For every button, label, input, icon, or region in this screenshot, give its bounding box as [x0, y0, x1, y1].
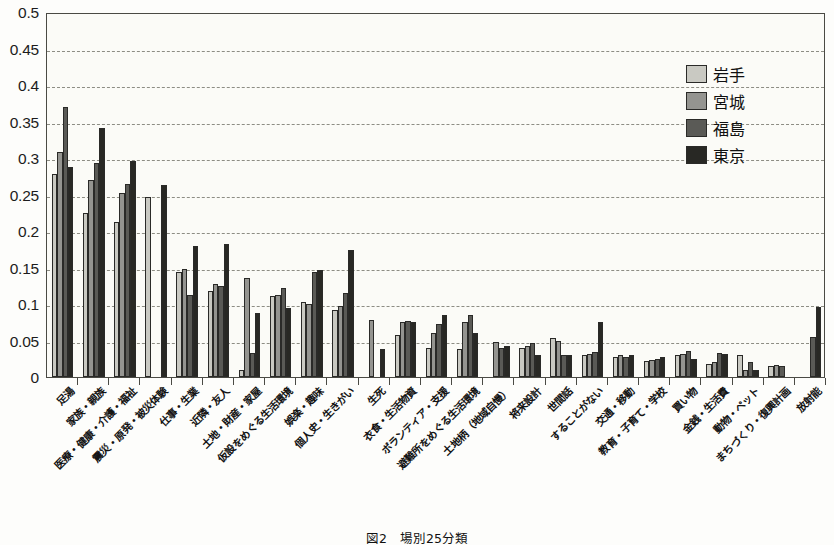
bar: [660, 357, 665, 377]
bar-group: [83, 14, 105, 377]
x-axis-ticks: [46, 378, 825, 385]
x-axis-tick: [513, 378, 514, 385]
figure-caption: 図2 場別25分類: [0, 528, 834, 545]
y-axis-tick-label: 0.5: [18, 4, 39, 22]
bar-group: [239, 14, 261, 377]
bar-group: [519, 14, 541, 377]
bar-group: [176, 14, 198, 377]
y-axis-tick-label: 0.35: [10, 114, 39, 132]
x-axis-tick: [358, 378, 359, 385]
legend-label: 東京: [713, 143, 745, 167]
bar-group: [457, 14, 479, 377]
x-axis-tick: [295, 378, 296, 385]
x-axis-category-label: 足湯: [53, 385, 76, 408]
bar: [816, 307, 821, 377]
legend-swatch-icon: [686, 119, 707, 137]
bar-group: [145, 14, 167, 377]
bar-group: [301, 14, 323, 377]
x-axis-tick: [576, 378, 577, 385]
bar: [722, 354, 727, 377]
legend-swatch-icon: [686, 65, 707, 83]
x-axis-tick: [389, 378, 390, 385]
x-axis-tick: [825, 378, 826, 385]
bar-group: [613, 14, 635, 377]
bar: [99, 128, 104, 377]
bar-group: [800, 14, 822, 377]
bar-group: [550, 14, 572, 377]
y-axis-tick-label: 0.45: [10, 41, 39, 59]
x-axis-tick: [326, 378, 327, 385]
bar: [567, 355, 572, 377]
x-axis-tick: [139, 378, 140, 385]
bar: [473, 333, 478, 377]
y-axis-tick-label: 0: [31, 369, 39, 387]
bar: [317, 270, 322, 377]
y-axis-tick-label: 0.25: [10, 187, 39, 205]
x-axis-category-label: 放射能: [794, 385, 824, 415]
x-axis-tick: [607, 378, 608, 385]
bar-group: [582, 14, 604, 377]
x-axis-tick: [700, 378, 701, 385]
bar-group: [332, 14, 354, 377]
bar: [286, 308, 291, 377]
bar-group: [363, 14, 385, 377]
bar-group: [208, 14, 230, 377]
bar-group: [488, 14, 510, 377]
bar: [161, 185, 166, 377]
legend-label: 福島: [713, 116, 745, 140]
figure-container: 0.50.450.40.350.30.250.20.150.10.050 足湯家…: [0, 0, 834, 545]
bar-group: [644, 14, 666, 377]
bar: [68, 167, 73, 377]
x-axis-tick: [763, 378, 764, 385]
bar: [380, 349, 385, 377]
bar: [224, 244, 229, 377]
legend-item-東京: 東京: [686, 141, 796, 168]
x-axis-tick: [482, 378, 483, 385]
bar: [255, 313, 260, 377]
x-axis-tick: [202, 378, 203, 385]
x-axis-tick: [420, 378, 421, 385]
bar-group: [114, 14, 136, 377]
bar-group: [270, 14, 292, 377]
bar-group: [426, 14, 448, 377]
x-axis-tick: [108, 378, 109, 385]
bar: [535, 355, 540, 377]
bar: [348, 250, 353, 377]
legend: 岩手宮城福島東京: [686, 60, 796, 168]
legend-swatch-icon: [686, 146, 707, 164]
x-axis-tick: [732, 378, 733, 385]
bar: [779, 366, 784, 377]
y-axis-tick-label: 0.3: [18, 150, 39, 168]
legend-swatch-icon: [686, 92, 707, 110]
bar: [691, 359, 696, 377]
x-axis-tick: [264, 378, 265, 385]
y-axis-tick-label: 0.1: [18, 296, 39, 314]
legend-label: 宮城: [713, 89, 745, 113]
bar: [598, 322, 603, 377]
bar-group: [395, 14, 417, 377]
bar: [369, 320, 374, 377]
x-axis-tick: [171, 378, 172, 385]
bar: [411, 322, 416, 377]
y-axis-tick-label: 0.4: [18, 77, 39, 95]
x-axis-tick: [233, 378, 234, 385]
legend-label: 岩手: [713, 62, 745, 86]
bar: [442, 315, 447, 377]
y-axis-tick-label: 0.2: [18, 223, 39, 241]
x-axis-tick: [638, 378, 639, 385]
y-axis-tick-label: 0.15: [10, 260, 39, 278]
legend-item-岩手: 岩手: [686, 60, 796, 87]
x-axis-category-label: 将来設計: [507, 385, 544, 422]
legend-item-宮城: 宮城: [686, 87, 796, 114]
bar-group: [52, 14, 74, 377]
bar: [193, 246, 198, 377]
x-axis-tick: [451, 378, 452, 385]
x-axis-category-label: 生死: [365, 385, 388, 408]
bar: [629, 355, 634, 377]
y-axis: 0.50.450.40.350.30.250.20.150.10.050: [0, 0, 42, 392]
bar: [504, 346, 509, 377]
bar: [753, 370, 758, 377]
bar: [130, 161, 135, 377]
y-axis-tick-label: 0.05: [10, 333, 39, 351]
x-axis-tick: [669, 378, 670, 385]
